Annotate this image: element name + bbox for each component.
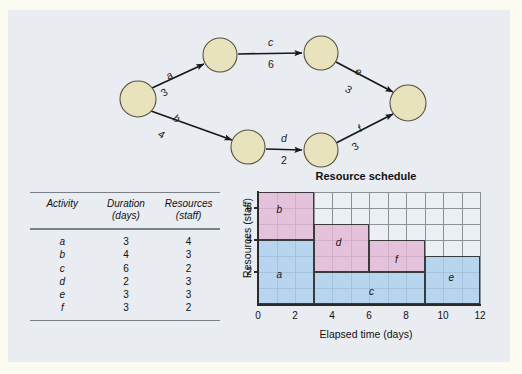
cell-duration: 3 <box>95 288 158 301</box>
cell-resources: 3 <box>157 275 220 288</box>
y-tick-mark <box>254 207 258 209</box>
x-tick-label: 4 <box>322 310 342 321</box>
header-resources-unit: (staff) <box>157 210 220 222</box>
cell-duration: 3 <box>95 236 158 249</box>
activity-table-body: a 3 4 b 4 3 c 6 2 d 2 3 <box>30 236 220 315</box>
edge-duration-d: 2 <box>281 154 287 166</box>
cell-activity: b <box>30 249 95 262</box>
edge-d-line <box>266 149 302 150</box>
activity-network-diagram: a 3 b 4 c 6 d 2 e 3 f 3 <box>8 10 510 170</box>
cell-resources: 3 <box>157 249 220 262</box>
header-activity-unit <box>30 210 95 222</box>
table-row: b 4 3 <box>30 249 220 262</box>
header-activity: Activity <box>30 193 95 210</box>
edge-a-line <box>152 64 204 88</box>
cell-duration: 6 <box>95 262 158 275</box>
network-nodes <box>120 36 426 167</box>
cell-activity: f <box>30 302 95 315</box>
table-body: a 3 4 b 4 3 c 6 2 d 2 3 <box>30 236 220 315</box>
cell-duration: 2 <box>95 275 158 288</box>
table-row: d 2 3 <box>30 275 220 288</box>
cell-activity: a <box>30 236 95 249</box>
schedule-block-b[interactable] <box>258 192 314 240</box>
y-tick-mark <box>254 239 258 241</box>
table-row: a 3 4 <box>30 236 220 249</box>
edge-duration-c: 6 <box>268 58 274 70</box>
y-tick-mark <box>254 271 258 273</box>
edge-c-line <box>238 53 302 54</box>
resource-schedule-chart: Resource schedule badcfe Elapsed time (d… <box>230 170 502 362</box>
header-resources: Resources <box>157 193 220 210</box>
node-end <box>390 85 426 121</box>
table-row: c 6 2 <box>30 262 220 275</box>
x-axis-line <box>257 304 481 306</box>
header-duration-unit: (days) <box>95 210 158 222</box>
y-tick-label: 6 <box>236 202 252 213</box>
y-tick-label: 4 <box>236 234 252 245</box>
activity-table-grid: Activity Duration Resources (days) (staf… <box>30 193 220 222</box>
table-header-row-2: (days) (staff) <box>30 210 220 222</box>
x-tick-label: 10 <box>433 310 453 321</box>
x-axis-label: Elapsed time (days) <box>230 328 502 340</box>
activity-table: Activity Duration Resources (days) (staf… <box>30 192 220 321</box>
edge-label-c: c <box>268 36 273 48</box>
chart-title: Resource schedule <box>230 170 502 182</box>
edge-f-line <box>336 114 393 143</box>
node-lower-right <box>304 133 338 167</box>
table-header-row-1: Activity Duration Resources <box>30 193 220 210</box>
cell-activity: d <box>30 275 95 288</box>
cell-duration: 4 <box>95 249 158 262</box>
schedule-block-c[interactable] <box>314 272 425 304</box>
cell-duration: 3 <box>95 302 158 315</box>
y-tick-label: 2 <box>236 266 252 277</box>
cell-resources: 2 <box>157 262 220 275</box>
schedule-block-d[interactable] <box>314 224 370 272</box>
network-svg <box>8 10 510 170</box>
x-tick-label: 12 <box>470 310 490 321</box>
x-tick-label: 8 <box>396 310 416 321</box>
table-head: Activity Duration Resources (days) (staf… <box>30 193 220 222</box>
header-duration: Duration <box>95 193 158 210</box>
table-row: e 3 3 <box>30 288 220 301</box>
schedule-block-a[interactable] <box>258 240 314 304</box>
schedule-block-e[interactable] <box>425 256 481 304</box>
cell-resources: 3 <box>157 288 220 301</box>
x-tick-label: 2 <box>285 310 305 321</box>
node-upper-left <box>203 38 237 72</box>
node-start <box>120 81 156 117</box>
node-lower-left <box>231 130 265 164</box>
figure-panel: a 3 b 4 c 6 d 2 e 3 f 3 Activity Duratio… <box>8 10 510 362</box>
chart-plot-area: badcfe <box>258 192 480 304</box>
grid-vline <box>480 192 481 304</box>
x-tick-label: 0 <box>248 310 268 321</box>
schedule-block-f[interactable] <box>369 240 425 272</box>
table-rule-bottom <box>30 320 220 321</box>
edge-label-d: d <box>281 132 287 144</box>
cell-resources: 2 <box>157 302 220 315</box>
x-tick-label: 6 <box>359 310 379 321</box>
table-row: f 3 2 <box>30 302 220 315</box>
cell-activity: e <box>30 288 95 301</box>
cell-resources: 4 <box>157 236 220 249</box>
node-upper-right <box>304 36 338 70</box>
cell-activity: c <box>30 262 95 275</box>
